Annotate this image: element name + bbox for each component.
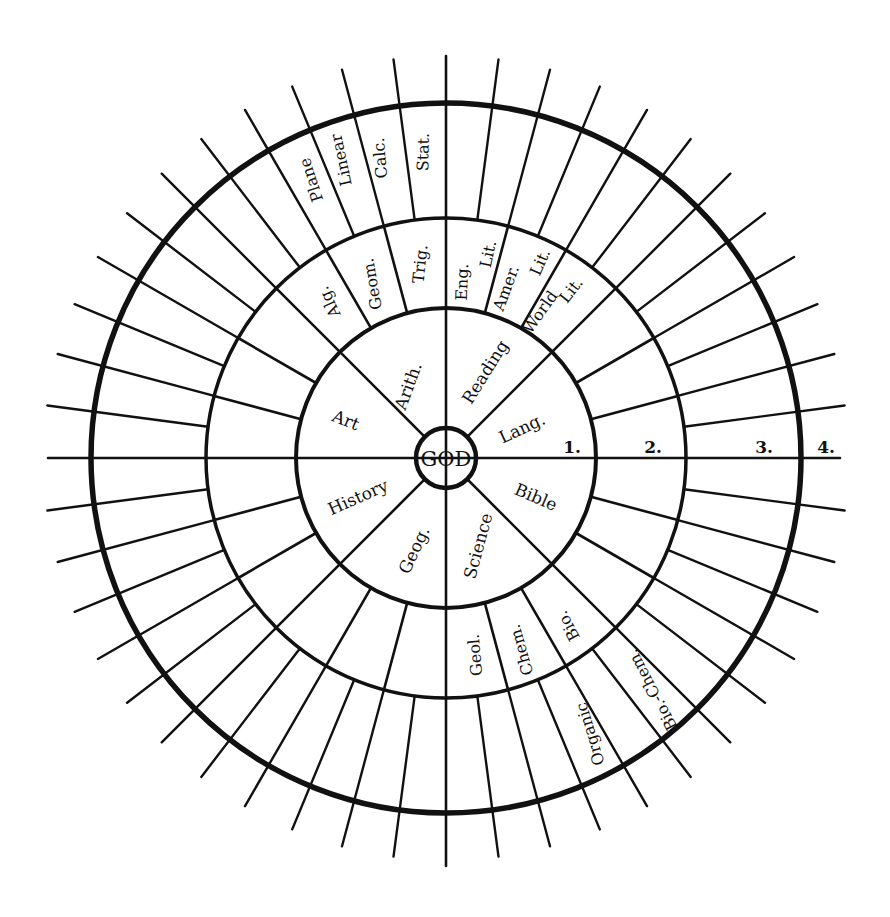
- subject-label: Geog.: [394, 523, 433, 577]
- spoke-outer: [75, 550, 225, 612]
- subject-label: Plane: [295, 156, 327, 205]
- core-label: GOD: [421, 447, 472, 471]
- spoke-outer: [394, 59, 415, 220]
- subject-label: Lit.: [526, 246, 554, 279]
- spoke-outer: [58, 520, 215, 562]
- spoke-middle: [384, 603, 407, 690]
- subject-label: Geom.: [358, 257, 386, 312]
- spoke-outer: [678, 520, 835, 562]
- spoke-middle: [485, 603, 508, 690]
- subject-label: Alg.: [314, 283, 345, 321]
- ring-number: 4.: [817, 437, 835, 457]
- spoke-middle: [214, 497, 301, 520]
- spoke-outer: [58, 354, 215, 396]
- spoke-outer: [477, 696, 498, 857]
- subject-label: Organic: [571, 700, 608, 768]
- spoke-outer: [292, 680, 354, 830]
- subject-label: Geol.: [464, 633, 487, 677]
- curriculum-wheel-diagram: GOD 1.2.3.4. ArtArith.ReadingLang.Histor…: [0, 0, 890, 917]
- ring-number: 3.: [755, 437, 773, 457]
- subject-label: Bible: [512, 479, 561, 515]
- spoke-outer: [47, 489, 208, 510]
- spoke-outer: [678, 354, 835, 396]
- ring-numbers: 1.2.3.4.: [563, 437, 835, 457]
- subject-label: Amer.: [489, 263, 523, 315]
- subject-label: Chem.: [505, 622, 538, 677]
- spoke-middle: [591, 396, 678, 419]
- spoke-outer: [508, 70, 550, 227]
- subject-label: Art: [329, 405, 363, 434]
- spoke-outer: [668, 550, 818, 612]
- subject-label: Calc.: [369, 137, 391, 179]
- subject-label: History: [325, 475, 392, 519]
- subject-label: Trig.: [409, 244, 432, 285]
- subject-label: Eng.: [452, 263, 472, 301]
- spoke-outer: [538, 87, 600, 237]
- subject-label: Lang.: [496, 409, 549, 448]
- spoke-middle: [384, 226, 407, 313]
- spoke-outer: [616, 174, 731, 289]
- spoke-outer: [162, 174, 277, 289]
- spoke-outer: [668, 304, 818, 366]
- spoke-middle: [576, 533, 654, 578]
- spoke-outer: [394, 696, 415, 857]
- ring-number: 1.: [563, 437, 581, 457]
- subject-label: Reading: [458, 336, 513, 407]
- spoke-middle: [238, 533, 316, 578]
- spoke-middle: [591, 497, 678, 520]
- spoke-outer: [162, 628, 277, 743]
- spoke-outer: [342, 690, 384, 847]
- spoke-middle: [276, 564, 340, 628]
- spoke-middle: [214, 396, 301, 419]
- spoke-middle: [326, 588, 371, 666]
- subject-label: Lit.: [555, 273, 587, 306]
- subject-label: Bio.-Chem.: [623, 646, 682, 734]
- subject-label: Arith.: [390, 360, 426, 414]
- spoke-outer: [508, 690, 550, 847]
- spoke-middle: [238, 338, 316, 383]
- spoke-outer: [47, 406, 208, 427]
- subject-label: Science: [460, 511, 497, 581]
- subject-label: Bio.: [552, 608, 583, 645]
- ring-number: 2.: [644, 437, 662, 457]
- subject-label: Stat.: [413, 133, 433, 172]
- spoke-middle: [576, 338, 654, 383]
- spoke-outer: [684, 489, 845, 510]
- spoke-outer: [75, 304, 225, 366]
- spoke-outer: [477, 59, 498, 220]
- spoke-outer: [684, 406, 845, 427]
